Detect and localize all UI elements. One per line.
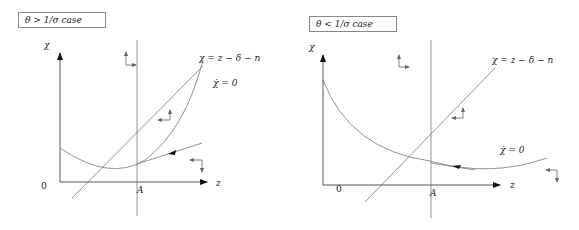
origin-label-left: 0 bbox=[41, 181, 47, 191]
curve-label-left: χ̇ = 0 bbox=[213, 78, 237, 88]
saddle-arrow-icon bbox=[452, 165, 461, 169]
point-a-label-left: A bbox=[137, 185, 144, 195]
y-axis-label-right: χ bbox=[309, 42, 314, 52]
saddle-arrow-icon bbox=[168, 150, 176, 155]
chi-line bbox=[365, 68, 495, 202]
point-a-label-right: A bbox=[430, 188, 437, 198]
saddle-path bbox=[431, 163, 475, 170]
line-label-left: χ = z − δ − n bbox=[199, 53, 260, 63]
direction-arrows bbox=[399, 55, 557, 182]
x-axis-label-left: z bbox=[216, 178, 221, 188]
origin-label-right: 0 bbox=[336, 184, 342, 194]
chi-dot-zero-curve bbox=[60, 60, 203, 169]
curve-label-right: χ̇ = 0 bbox=[500, 145, 524, 155]
x-axis-label-right: z bbox=[510, 180, 515, 190]
phase-diagrams bbox=[0, 0, 579, 230]
y-axis-label-left: χ bbox=[44, 40, 49, 50]
line-label-right: χ = z − δ − n bbox=[492, 55, 553, 65]
chi-line bbox=[72, 66, 203, 198]
case-label-right: θ < 1/σ case bbox=[309, 16, 397, 32]
case-label-left: θ > 1/σ case bbox=[18, 12, 106, 28]
right-panel bbox=[323, 40, 557, 218]
chi-dot-zero-curve bbox=[323, 80, 547, 169]
left-panel bbox=[60, 40, 207, 216]
